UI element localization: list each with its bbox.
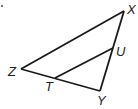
label-u: U (116, 44, 126, 59)
segment-zy (21, 69, 100, 91)
label-y: Y (97, 93, 107, 108)
label-z: Z (7, 64, 17, 79)
triangle-diagram: X Z Y U T (0, 0, 138, 109)
stray-dot (1, 5, 3, 7)
label-t: T (45, 79, 54, 94)
segment-tu (55, 48, 113, 78)
label-x: X (126, 2, 137, 17)
